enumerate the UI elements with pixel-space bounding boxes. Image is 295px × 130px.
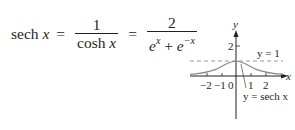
x-tick-label: −1 xyxy=(214,79,226,91)
y-tick-label-2: 2 xyxy=(228,40,234,52)
x-tick-label: −2 xyxy=(200,79,212,91)
asymptote-label: y = 1 xyxy=(257,47,280,59)
x-axis-label: x xyxy=(285,70,291,82)
sech-graph: y x 2 y = 1 −2 −1 0 1 2 y = sech x xyxy=(0,0,295,130)
x-tick-label: 0 xyxy=(228,79,234,91)
curve-label: y = sech x xyxy=(243,90,288,102)
y-axis-arrow-icon xyxy=(234,30,239,37)
y-axis-label: y xyxy=(232,18,238,30)
